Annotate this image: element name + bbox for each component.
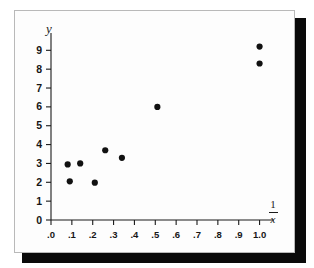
figure-root: .0.1.2.3.4.5.6.7.8.91.00123456789 y 1 x — [0, 0, 314, 268]
data-point — [119, 155, 125, 161]
y-axis-tick-label: 6 — [36, 100, 42, 112]
data-point — [256, 43, 262, 49]
y-axis-tick-label: 4 — [36, 138, 42, 150]
y-axis-tick-label: 3 — [36, 157, 42, 169]
x-axis-label: 1 x — [264, 199, 282, 225]
y-axis-tick-label: 8 — [36, 63, 42, 75]
y-axis-tick-label: 5 — [36, 119, 42, 131]
y-axis-tick-label: 2 — [36, 176, 42, 188]
x-axis-tick-label: .7 — [193, 229, 201, 240]
data-point — [154, 104, 160, 110]
data-point — [77, 160, 83, 166]
data-point-group — [65, 43, 263, 185]
x-axis-tick-label: .0 — [47, 229, 55, 240]
data-point — [92, 180, 98, 186]
x-axis-tick-label: 1.0 — [253, 229, 266, 240]
x-axis-tick-label: .4 — [130, 229, 139, 240]
x-axis-tick-label: .6 — [172, 229, 180, 240]
y-axis-tick-label: 7 — [36, 82, 42, 94]
scatter-plot-svg: .0.1.2.3.4.5.6.7.8.91.00123456789 — [15, 11, 294, 252]
x-axis-tick-label: .3 — [110, 229, 118, 240]
y-axis-tick-label: 0 — [36, 214, 42, 226]
plot-area: .0.1.2.3.4.5.6.7.8.91.00123456789 — [15, 11, 294, 252]
x-axis-label-denominator: x — [264, 214, 282, 226]
y-axis-label: y — [46, 22, 52, 35]
data-point — [67, 178, 73, 184]
x-axis-tick-label: .5 — [151, 229, 160, 240]
x-axis-tick-label: .2 — [89, 229, 97, 240]
x-axis-tick-label: .8 — [214, 229, 222, 240]
y-axis-tick-label: 9 — [36, 44, 42, 56]
figure-card: .0.1.2.3.4.5.6.7.8.91.00123456789 y 1 x — [14, 10, 295, 253]
data-point — [65, 161, 71, 167]
y-axis-tick-label: 1 — [36, 195, 42, 207]
data-point — [256, 60, 262, 66]
x-axis-label-numerator: 1 — [264, 199, 282, 211]
x-axis-tick-label: .1 — [68, 229, 77, 240]
x-axis-tick-label: .9 — [235, 229, 243, 240]
data-point — [102, 147, 108, 153]
